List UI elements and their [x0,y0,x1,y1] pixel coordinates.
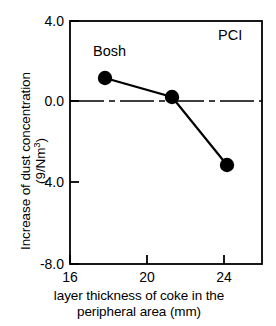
x-axis-title: layer thickness of coke in the periphera… [14,288,264,320]
y-tick-label-neg8: -8.0 [13,257,64,271]
pci-label: PCI [218,28,242,43]
chart-figure: 4.0 0.0 -4.0 -8.0 16 20 24 Bosh PCI Incr… [0,0,276,326]
y-tick-label-neg4: -4.0 [13,175,64,189]
data-point-1 [98,71,112,85]
bosh-label: Bosh [93,44,126,59]
x-tick-label-16: 16 [54,270,86,284]
y-tick-label-4: 4.0 [18,14,64,28]
data-point-3 [220,158,234,172]
x-tick-label-24: 24 [208,270,240,284]
y-tick-label-0: 0.0 [18,94,64,108]
data-point-2 [165,90,179,104]
x-axis-title-line2: peripheral area (mm) [14,304,264,320]
x-axis-title-line1: layer thickness of coke in the [14,288,264,304]
x-tick-label-20: 20 [131,270,163,284]
